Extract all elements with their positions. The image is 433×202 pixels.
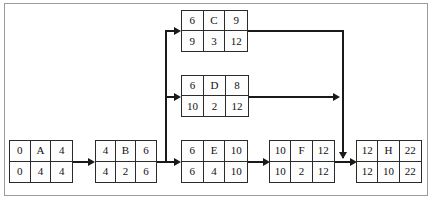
node-f-early-finish: 12	[313, 141, 334, 161]
node-h-duration: 10	[378, 162, 399, 183]
node-b-early-finish: 6	[136, 141, 156, 161]
edge-a-to-b-arrowhead	[88, 158, 95, 166]
node-e-label: E	[204, 141, 226, 161]
node-h-early-start: 12	[357, 141, 378, 161]
node-e-bottom-row: 6 4 10	[182, 162, 247, 183]
node-c-early-start: 6	[182, 11, 204, 30]
node-h-early-finish: 22	[400, 141, 421, 161]
edge-d-to-merge	[249, 96, 335, 98]
node-f-label: F	[291, 141, 312, 161]
node-c-late-start: 9	[182, 31, 204, 51]
node-d-early-start: 6	[182, 76, 204, 95]
node-b-top-row: 4 B 6	[96, 141, 156, 162]
node-b[interactable]: 4 B 6 4 2 6	[95, 140, 157, 183]
node-f-top-row: 10 F 12	[270, 141, 334, 162]
node-d-late-finish: 12	[226, 96, 248, 116]
node-b-late-start: 4	[96, 162, 116, 183]
node-d-early-finish: 8	[226, 76, 248, 95]
node-f-early-start: 10	[270, 141, 291, 161]
node-e-late-finish: 10	[225, 162, 247, 183]
node-a-early-start: 0	[10, 141, 31, 161]
node-c[interactable]: 6 C 9 9 3 12	[181, 10, 248, 52]
node-c-early-finish: 9	[225, 11, 247, 30]
node-b-early-start: 4	[96, 141, 116, 161]
node-d-bottom-row: 10 2 12	[182, 96, 248, 116]
node-h[interactable]: 12 H 22 12 10 22	[356, 140, 422, 183]
node-a-late-start: 0	[10, 162, 31, 183]
edge-d-to-merge-arrowhead	[333, 93, 340, 101]
node-a-bottom-row: 0 4 4	[10, 162, 72, 183]
edge-c-to-merge-horizontal	[248, 30, 344, 32]
edge-branch-to-e-arrowhead	[174, 158, 181, 166]
node-h-late-finish: 22	[400, 162, 421, 183]
node-d-duration: 2	[204, 96, 226, 116]
node-e-late-start: 6	[182, 162, 204, 183]
node-b-label: B	[116, 141, 136, 161]
node-a-label: A	[31, 141, 52, 161]
edge-branch-to-d-arrowhead	[174, 93, 181, 101]
node-c-label: C	[204, 11, 226, 30]
node-h-label: H	[378, 141, 399, 161]
node-b-duration: 2	[116, 162, 136, 183]
node-a-late-finish: 4	[51, 162, 72, 183]
node-f[interactable]: 10 F 12 10 2 12	[269, 140, 335, 183]
node-d-top-row: 6 D 8	[182, 76, 248, 96]
node-a-duration: 4	[31, 162, 52, 183]
node-f-late-start: 10	[270, 162, 291, 183]
node-a[interactable]: 0 A 4 0 4 4	[9, 140, 73, 183]
node-f-bottom-row: 10 2 12	[270, 162, 334, 183]
node-f-duration: 2	[291, 162, 312, 183]
node-d-label: D	[204, 76, 226, 95]
node-a-early-finish: 4	[51, 141, 72, 161]
node-e-top-row: 6 E 10	[182, 141, 247, 162]
node-b-late-finish: 6	[136, 162, 156, 183]
node-e[interactable]: 6 E 10 6 4 10	[181, 140, 248, 183]
node-d[interactable]: 6 D 8 10 2 12	[181, 75, 249, 117]
node-h-bottom-row: 12 10 22	[357, 162, 421, 183]
node-h-late-start: 12	[357, 162, 378, 183]
network-diagram-canvas: 0 A 4 0 4 4 4 B 6 4 2 6 6 C 9 9 3	[0, 0, 433, 202]
node-a-top-row: 0 A 4	[10, 141, 72, 162]
node-f-late-finish: 12	[313, 162, 334, 183]
node-c-top-row: 6 C 9	[182, 11, 247, 31]
node-c-duration: 3	[204, 31, 226, 51]
node-c-late-finish: 12	[225, 31, 247, 51]
node-e-early-finish: 10	[225, 141, 247, 161]
node-e-early-start: 6	[182, 141, 204, 161]
edge-merge-to-h-arrowhead	[339, 152, 347, 159]
node-b-bottom-row: 4 2 6	[96, 162, 156, 183]
node-d-late-start: 10	[182, 96, 204, 116]
node-h-top-row: 12 H 22	[357, 141, 421, 162]
edge-branch-to-c-arrowhead	[174, 27, 181, 35]
node-c-bottom-row: 9 3 12	[182, 31, 247, 51]
node-e-duration: 4	[204, 162, 226, 183]
merge-descender-vertical	[342, 30, 344, 158]
